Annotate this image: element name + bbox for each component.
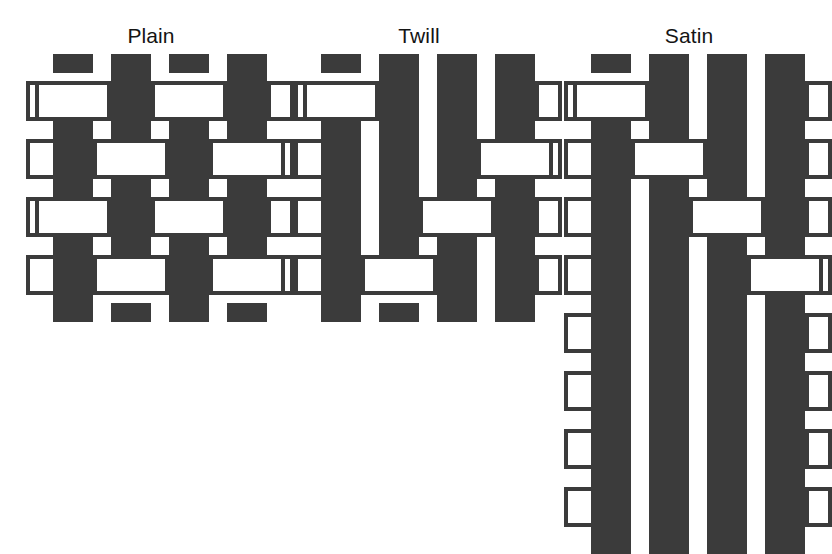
weave-diagram-twill: Twill [294,24,544,322]
weave-title-plain: Plain [26,24,276,48]
warp-thread [707,54,747,554]
weave-title-satin: Satin [564,24,814,48]
weave-canvas-plain [26,54,294,322]
weave-canvas-twill [294,54,562,322]
warp-thread [649,54,689,554]
weave-diagram-plain: Plain [26,24,276,322]
weave-title-twill: Twill [294,24,544,48]
warp-thread [765,54,805,554]
warp-thread [495,54,535,322]
weave-canvas-satin [564,54,832,554]
weave-diagram-satin: Satin [564,24,814,554]
warp-thread [437,54,477,322]
warp-thread [591,54,631,554]
